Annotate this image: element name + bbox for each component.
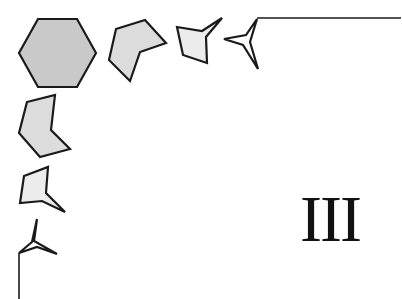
three-point-star-top-shape <box>224 19 258 69</box>
concave-pentagon-shape <box>109 20 166 81</box>
hexagon-shape <box>19 19 96 87</box>
roman-numeral-label: III <box>300 186 360 252</box>
three-point-star-left-shape <box>19 219 57 254</box>
arrow-quad-shape <box>177 18 222 63</box>
concave-hexagon-shape <box>19 95 70 157</box>
arrow-quad-left-shape <box>20 167 65 212</box>
